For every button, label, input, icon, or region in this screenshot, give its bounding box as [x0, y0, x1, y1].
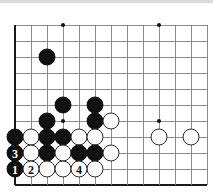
stone-white	[103, 113, 120, 130]
stone-black-move-3: 3	[7, 145, 24, 162]
top-divider-rule	[0, 0, 213, 3]
grid-line-vertical	[175, 25, 176, 185]
go-board-diagram: 3124	[0, 0, 213, 194]
stone-white	[71, 129, 88, 146]
grid-line-vertical	[159, 25, 160, 185]
star-point	[61, 23, 65, 27]
stone-move-number: 2	[28, 163, 34, 175]
stone-white	[23, 129, 40, 146]
stone-black	[87, 97, 104, 114]
stone-white	[39, 161, 56, 178]
stone-white	[55, 161, 72, 178]
stone-move-number: 4	[76, 163, 82, 175]
stone-black	[71, 145, 88, 162]
stone-white	[23, 145, 40, 162]
stone-black	[39, 49, 56, 66]
stone-black	[7, 129, 24, 146]
stone-white	[55, 145, 72, 162]
stone-black-move-1: 1	[7, 161, 24, 178]
stone-black	[55, 129, 72, 146]
star-point	[157, 119, 161, 123]
stone-black	[55, 97, 72, 114]
stone-move-number: 3	[12, 147, 18, 159]
stone-black	[87, 145, 104, 162]
stone-black	[87, 113, 104, 130]
stone-white	[103, 145, 120, 162]
grid-line-vertical	[191, 25, 192, 185]
stone-white	[183, 129, 200, 146]
grid-line-vertical	[127, 25, 128, 185]
grid-line-vertical	[207, 25, 208, 185]
stone-black	[39, 145, 56, 162]
star-point	[157, 23, 161, 27]
star-point	[61, 119, 65, 123]
stone-white-move-2: 2	[23, 161, 40, 178]
grid-line-vertical	[143, 25, 144, 185]
stone-black	[39, 129, 56, 146]
stone-black	[39, 113, 56, 130]
stone-move-number: 1	[12, 163, 18, 175]
stone-white	[151, 129, 168, 146]
stone-white	[87, 129, 104, 146]
stone-white-move-4: 4	[71, 161, 88, 178]
stone-white	[87, 161, 104, 178]
